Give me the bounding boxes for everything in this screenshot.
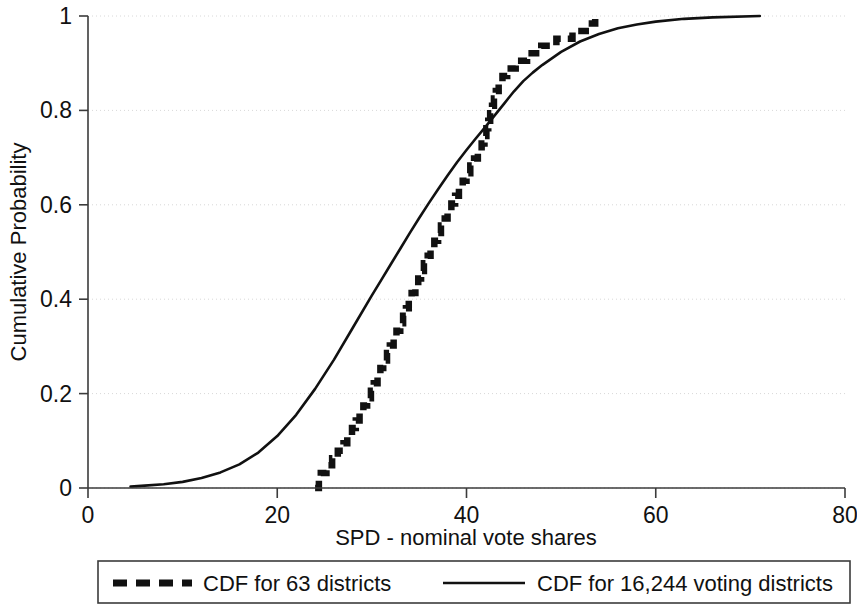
x-axis: 020406080 (82, 488, 857, 528)
y-tick-label: 1 (59, 3, 72, 29)
chart-figure: 00.20.40.60.81 020406080 SPD - nominal v… (0, 0, 857, 605)
x-axis-title: SPD - nominal vote shares (335, 525, 597, 550)
y-axis: 00.20.40.60.81 (40, 3, 88, 501)
y-tick-label: 0.6 (40, 192, 72, 218)
y-tick-label: 0.2 (40, 381, 72, 407)
series-line-sample-cdf (315, 16, 595, 488)
legend: CDF for 63 districts CDF for 16,244 voti… (98, 561, 850, 603)
y-tick-label: 0.4 (40, 286, 72, 312)
gridlines (88, 16, 845, 488)
legend-label-population: CDF for 16,244 voting districts (537, 571, 833, 596)
x-tick-label: 0 (82, 502, 95, 528)
y-tick-label: 0 (59, 475, 72, 501)
x-tick-label: 60 (643, 502, 669, 528)
series-line-population-cdf (131, 16, 760, 487)
x-tick-label: 80 (832, 502, 857, 528)
x-tick-label: 20 (264, 502, 290, 528)
legend-label-sample: CDF for 63 districts (203, 571, 391, 596)
y-tick-label: 0.8 (40, 97, 72, 123)
cdf-chart: 00.20.40.60.81 020406080 SPD - nominal v… (0, 0, 857, 605)
y-axis-title: Cumulative Probability (6, 143, 31, 362)
plot-series (131, 16, 760, 488)
